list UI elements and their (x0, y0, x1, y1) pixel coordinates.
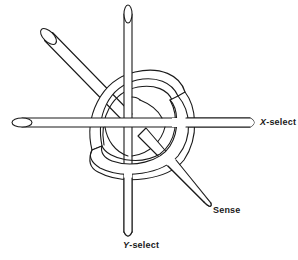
core-ring-back (90, 70, 185, 150)
core-memory-diagram (0, 0, 298, 260)
y-select-label: Y-select (123, 241, 159, 250)
x-select-wire-front-segment (172, 118, 254, 127)
x-select-label-suffix: -select (266, 117, 296, 127)
sense-wire-back (38, 26, 132, 122)
sense-wire-front-segment (166, 158, 211, 206)
y-select-label-suffix: -select (129, 240, 159, 250)
y-select-wire-front-segment (124, 172, 132, 236)
sense-label: Sense (213, 206, 241, 215)
x-select-label: X-select (260, 118, 296, 127)
